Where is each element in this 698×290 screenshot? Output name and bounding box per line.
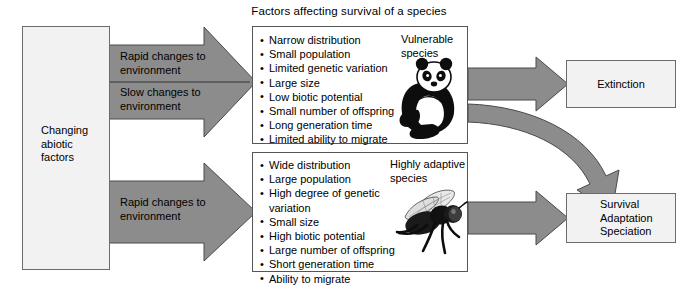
- adaptive-species-caption: Highly adaptive species: [390, 158, 470, 185]
- arrow-label-rapid-changes-top: Rapid changes to environment: [120, 50, 230, 77]
- arrow-vulnerable-to-extinction: [468, 57, 568, 111]
- survival-adaptation-speciation-label: Survival Adaptation Speciation: [600, 198, 680, 239]
- list-item: Low biotic potential: [260, 90, 410, 104]
- arrow-label-slow-changes-top: Slow changes to environment: [120, 86, 230, 113]
- panda-icon: [390, 55, 468, 139]
- list-item: Large size: [260, 76, 410, 90]
- list-item: Limited genetic variation: [260, 61, 410, 75]
- arrow-label-rapid-changes-bottom: Rapid changes to environment: [120, 196, 230, 223]
- fly-icon: [383, 183, 469, 263]
- list-item: Limited ability to migrate: [260, 132, 410, 146]
- list-item: Small number of offspring: [260, 104, 410, 118]
- vulnerable-factors-list: Narrow distribution Small population Lim…: [260, 33, 410, 147]
- extinction-label: Extinction: [566, 78, 676, 92]
- list-item: Ability to migrate: [260, 272, 412, 286]
- arrow-adaptive-to-survival: [468, 191, 568, 245]
- list-item: Small population: [260, 47, 410, 61]
- list-item: Narrow distribution: [260, 33, 410, 47]
- diagram-canvas: Factors affecting survival of a species …: [0, 0, 698, 290]
- changing-abiotic-factors-label: Changing abiotic factors: [41, 124, 111, 165]
- list-item: Long generation time: [260, 118, 410, 132]
